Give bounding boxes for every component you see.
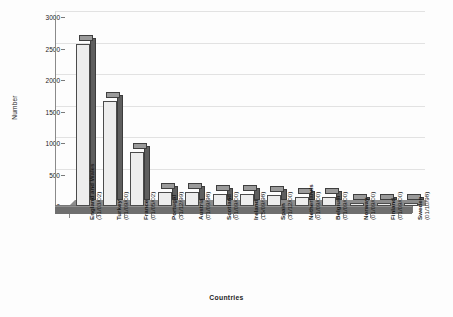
x-axis-label: Norway(01/09/00) — [362, 192, 377, 220]
x-tick-mark — [370, 214, 371, 218]
x-axis-label: England and Wales(31/03/02) — [88, 164, 103, 221]
x-axis-label: Spain(31/12/00) — [279, 192, 294, 220]
x-tick-mark — [179, 214, 180, 218]
x-tick-mark — [261, 214, 262, 218]
x-axis-labels: England and Wales(31/03/02)Turkey(01/09/… — [0, 0, 453, 317]
x-tick-mark — [124, 214, 125, 218]
x-tick-mark — [69, 214, 70, 218]
x-tick-mark — [233, 214, 234, 218]
x-axis-label: Sweden(01/10/98) — [416, 192, 431, 220]
x-label-date: (01/10/98) — [424, 192, 431, 220]
bar-chart-figure: 050010001500200025003000 Number England … — [0, 0, 453, 317]
x-label-date: (31/03/02) — [95, 164, 102, 221]
x-label-country: Scotland — [225, 192, 232, 220]
x-axis-label: Austria(01/09/98) — [197, 192, 212, 220]
x-label-country: Portugal — [170, 192, 177, 220]
x-label-country: Finland — [389, 192, 396, 220]
x-axis-label: Netherlands(01/09/00) — [307, 184, 322, 220]
x-axis-label: France(01/05/02) — [142, 192, 157, 220]
x-tick-mark — [343, 214, 344, 218]
x-label-country: Norway — [362, 192, 369, 220]
x-tick-mark — [151, 214, 152, 218]
x-axis-label: Scotland(01/09/00) — [225, 192, 240, 220]
x-axis-label: Portugal(31/12/99) — [170, 192, 185, 220]
x-label-country: England and Wales — [88, 164, 95, 221]
x-tick-mark — [315, 214, 316, 218]
x-axis-label: Ireland(15/09/98) — [252, 192, 267, 220]
x-axis-label: Belgium(01/09/00) — [334, 192, 349, 220]
x-tick-mark — [206, 214, 207, 218]
x-axis-label: Turkey(01/09/00) — [115, 192, 130, 220]
x-label-country: Turkey — [115, 192, 122, 220]
x-axis-label: Finland(01/09/00) — [389, 192, 404, 220]
x-tick-mark — [398, 214, 399, 218]
x-axis-title: Countries — [0, 294, 453, 301]
x-label-country: Ireland — [252, 192, 259, 220]
x-tick-mark — [96, 214, 97, 218]
x-label-country: Netherlands — [307, 184, 314, 220]
x-tick-mark — [288, 214, 289, 218]
